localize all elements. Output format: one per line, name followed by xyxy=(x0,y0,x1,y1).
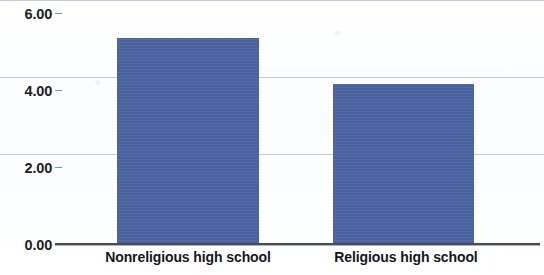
y-axis-tick-mark-6 xyxy=(55,13,62,14)
y-axis-tick-label-6: 6.00 xyxy=(0,7,52,22)
bar-religious-high-school xyxy=(333,84,474,244)
plot-area xyxy=(62,13,540,244)
y-axis-tick-mark-2 xyxy=(55,167,62,168)
y-axis-tick-label-4: 4.00 xyxy=(0,84,52,99)
y-axis-tick-label-0: 0.00 xyxy=(0,238,52,253)
x-axis-tick-label-religious: Religious high school xyxy=(323,250,489,265)
y-axis-tick-mark-4 xyxy=(55,90,62,91)
bar-nonreligious-high-school xyxy=(117,38,259,244)
bar-texture xyxy=(333,84,474,244)
x-axis-tick-label-nonreligious: Nonreligious high school xyxy=(98,250,278,265)
y-axis-labels: 6.00 4.00 2.00 0.00 xyxy=(0,0,52,275)
bar-chart: 6.00 4.00 2.00 0.00 Nonreligious high sc… xyxy=(0,0,544,275)
y-axis-tick-label-2: 2.00 xyxy=(0,161,52,176)
x-axis-line-shadow xyxy=(55,245,540,246)
bar-texture xyxy=(117,38,259,244)
gridline-6 xyxy=(0,0,544,1)
